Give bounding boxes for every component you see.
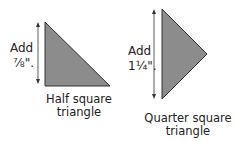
half-square-group [36, 22, 110, 86]
quarter-square-caption: Quarter square triangle [141, 112, 235, 138]
half-square-caption-line2: triangle [44, 106, 114, 119]
arrow-down-icon [36, 79, 40, 84]
arrow-up-icon [152, 9, 156, 14]
half-square-add-label: Add [10, 41, 33, 55]
half-square-triangle-shape [45, 22, 110, 86]
arrow-up-icon [36, 22, 40, 27]
quarter-square-group [152, 9, 207, 99]
quarter-square-measurement: 1¼". [128, 59, 157, 73]
quarter-square-add-label: Add [128, 44, 151, 58]
quarter-square-triangle-shape [162, 9, 207, 99]
quarter-square-caption-line2: triangle [141, 125, 235, 138]
half-square-measurement: ⅞". [13, 56, 34, 70]
half-square-caption: Half square triangle [44, 93, 114, 119]
arrow-down-icon [152, 94, 156, 99]
